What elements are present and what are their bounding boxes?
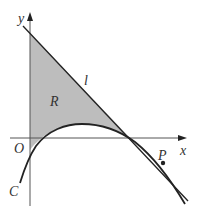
curve-c-label: C bbox=[9, 184, 19, 199]
x-axis-arrow-icon bbox=[178, 135, 187, 141]
region-r bbox=[30, 33, 131, 150]
line-l-label: l bbox=[84, 73, 88, 88]
diagram-canvas: y x O l R P C bbox=[0, 0, 199, 214]
y-axis-arrow-icon bbox=[27, 12, 33, 21]
region-r-label: R bbox=[49, 94, 59, 109]
origin-label: O bbox=[14, 141, 24, 156]
curve-c bbox=[20, 124, 185, 204]
y-axis-label: y bbox=[16, 11, 25, 26]
point-p-label: P bbox=[157, 148, 167, 163]
x-axis-label: x bbox=[179, 143, 187, 158]
